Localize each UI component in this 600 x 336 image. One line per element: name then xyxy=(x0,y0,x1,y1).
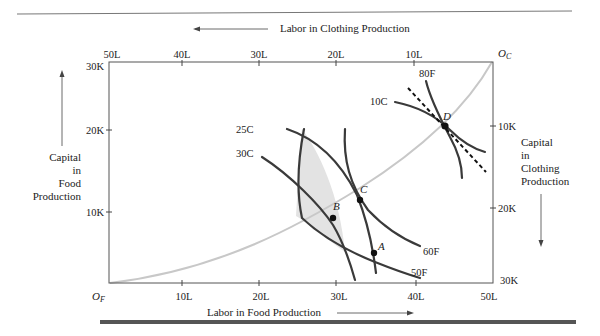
bottom-tick-50L: 50L xyxy=(481,291,498,302)
top-rule xyxy=(17,11,572,14)
bottom-tick-20L: 20L xyxy=(253,291,270,302)
label-50F: 50F xyxy=(411,267,428,278)
down-arrow-icon xyxy=(539,240,544,247)
label-80F: 80F xyxy=(419,68,436,79)
origin-clothing: OC xyxy=(498,47,512,61)
up-arrow-icon xyxy=(60,70,65,77)
point-A xyxy=(371,250,377,256)
left-title-4: Production xyxy=(33,190,82,202)
label-30C: 30C xyxy=(236,148,254,159)
right-tick-30K: 30K xyxy=(500,275,519,286)
isoquant-60F xyxy=(345,129,420,246)
point-B xyxy=(330,215,336,221)
label-10C: 10C xyxy=(370,96,388,107)
right-tick-10K: 10K xyxy=(498,121,517,132)
left-title-2: in xyxy=(72,164,81,176)
top-axis-title: Labor in Clothing Production xyxy=(280,22,410,34)
label-A: A xyxy=(377,240,385,252)
edgeworth-box-diagram: Labor in Clothing Production Labor in Fo… xyxy=(0,0,600,336)
label-D: D xyxy=(442,110,451,122)
label-25C: 25C xyxy=(236,124,254,135)
isoquant-80F xyxy=(426,81,462,178)
label-B: B xyxy=(333,200,340,212)
origin-food: OF xyxy=(92,290,105,304)
top-tick-10L: 10L xyxy=(406,49,423,60)
label-60F: 60F xyxy=(423,246,440,257)
label-C: C xyxy=(360,183,368,195)
right-title-3: Clothing xyxy=(521,162,560,174)
right-tick-20K: 20K xyxy=(498,203,517,214)
top-tick-40L: 40L xyxy=(174,49,191,60)
left-tick-10K: 10K xyxy=(86,207,105,218)
bottom-tick-10L: 10L xyxy=(176,291,193,302)
top-tick-20L: 20L xyxy=(328,49,345,60)
bottom-tick-40L: 40L xyxy=(408,291,425,302)
point-D xyxy=(441,122,448,129)
right-title-1: Capital xyxy=(521,136,553,148)
left-tick-30K: 30K xyxy=(86,61,105,72)
right-title-4: Production xyxy=(521,175,570,187)
point-C xyxy=(357,197,363,203)
bottom-axis-title: Labor in Food Production xyxy=(207,306,321,318)
top-tick-30L: 30L xyxy=(251,49,268,60)
left-arrow-icon xyxy=(193,27,200,32)
bottom-tick-30L: 30L xyxy=(331,291,348,302)
top-tick-50L: 50L xyxy=(104,49,121,60)
right-title-2: in xyxy=(521,149,530,161)
left-title-3: Food xyxy=(58,177,81,189)
right-arrow-icon xyxy=(407,311,414,316)
tangent-line-D xyxy=(408,88,486,172)
left-tick-20K: 20K xyxy=(86,125,105,136)
left-title-1: Capital xyxy=(49,151,81,163)
bottom-rule xyxy=(100,320,576,324)
